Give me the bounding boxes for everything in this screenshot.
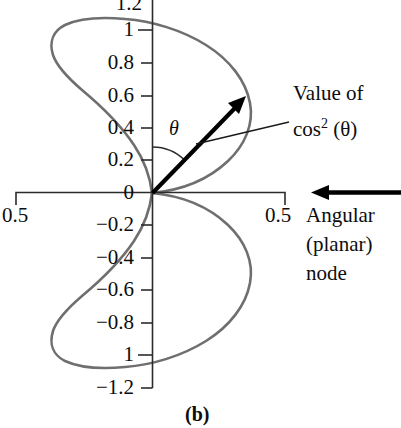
- y-tick-label-neg1: 1: [104, 344, 134, 365]
- y-tick-label-0.6: 0.6: [86, 85, 134, 106]
- panel-label: (b): [185, 404, 209, 424]
- y-tick-label-1: 1: [104, 19, 134, 40]
- vertical-axis-ticks: [138, 30, 153, 388]
- y-tick-label-0.4: 0.4: [86, 117, 134, 138]
- cos-function-text: cos: [293, 117, 321, 141]
- y-tick-label-0.2: 0.2: [86, 149, 134, 170]
- node-callout-line1: Angular: [306, 205, 375, 226]
- theta-symbol-label: θ: [169, 118, 179, 138]
- polar-plot-figure: 1.2 1 0.8 0.6 0.4 0.2 0 −0.2 −0.4 −0.6 −…: [0, 0, 401, 428]
- upper-lobe-curve: [52, 18, 251, 193]
- y-tick-label-1.2: 1.2: [104, 0, 142, 14]
- node-callout-line3: node: [306, 263, 347, 284]
- x-tick-label-left-0.5: 0.5: [2, 205, 28, 226]
- radius-vector-arrow: [153, 96, 247, 193]
- y-tick-label-neg0.4: −0.4: [76, 247, 134, 268]
- theta-arc: [153, 147, 186, 161]
- y-tick-label-0.8: 0.8: [86, 52, 134, 73]
- y-tick-label-neg0.6: −0.6: [76, 279, 134, 300]
- node-arrow: [311, 185, 401, 200]
- value-callout-line1: Value of: [293, 83, 364, 104]
- y-tick-label-neg1.2: −1.2: [76, 377, 134, 398]
- y-tick-label-neg0.2: −0.2: [76, 214, 134, 235]
- y-tick-label-0: 0: [104, 182, 134, 203]
- node-callout-line2: (planar): [306, 234, 372, 255]
- value-callout-formula: cos2 (θ): [293, 117, 357, 140]
- x-tick-label-right-0.5: 0.5: [265, 205, 291, 226]
- y-tick-label-neg0.8: −0.8: [76, 312, 134, 333]
- cos-argument-text: (θ): [333, 117, 357, 141]
- cos-exponent-text: 2: [321, 116, 328, 131]
